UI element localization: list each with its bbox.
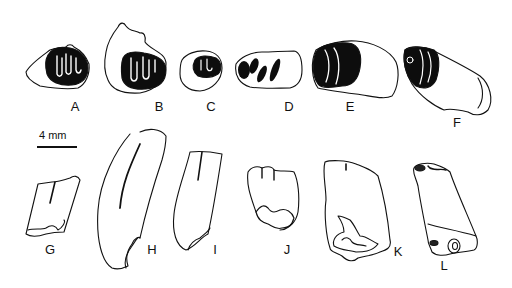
label-j: J xyxy=(284,243,291,256)
specimen-g-drawing xyxy=(26,176,80,236)
label-e: E xyxy=(346,100,355,113)
specimen-i-drawing xyxy=(174,152,223,250)
specimen-a-drawing xyxy=(26,45,89,89)
specimen-b-drawing xyxy=(105,23,166,93)
label-f: F xyxy=(453,116,461,129)
label-k: K xyxy=(394,245,403,258)
label-g: G xyxy=(45,243,55,256)
specimen-c-drawing xyxy=(180,51,222,91)
label-a: A xyxy=(71,100,80,113)
specimen-l-drawing xyxy=(413,163,477,255)
specimen-e-drawing xyxy=(312,41,398,98)
specimen-d-drawing xyxy=(236,51,302,88)
specimen-f-drawing xyxy=(404,47,491,115)
label-i: I xyxy=(213,243,217,256)
label-c: C xyxy=(206,100,215,113)
label-d: D xyxy=(284,100,293,113)
label-l: L xyxy=(440,259,447,272)
label-h: H xyxy=(147,243,156,256)
scale-bar xyxy=(37,146,77,148)
drawings-canvas xyxy=(0,0,512,288)
specimen-k-drawing xyxy=(324,161,391,261)
tooth-illustration-figure: 4 mm A B C D E F G H I J K L xyxy=(0,0,512,288)
label-b: B xyxy=(155,100,164,113)
specimen-j-drawing xyxy=(248,167,299,230)
scale-bar-label: 4 mm xyxy=(39,129,67,141)
